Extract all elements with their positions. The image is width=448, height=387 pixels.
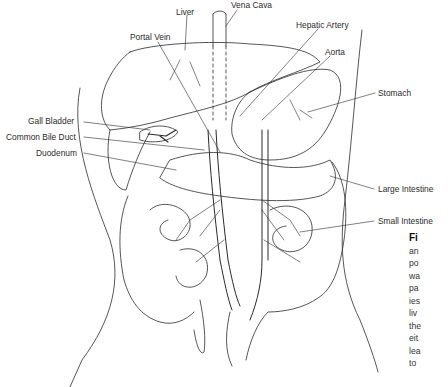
label-liver: Liver — [176, 8, 194, 16]
label-aorta: Aorta — [325, 48, 345, 56]
leader-liver — [185, 15, 187, 50]
label-small-intestine: Small Intestine — [378, 217, 433, 225]
caption-line: an — [409, 245, 448, 258]
caption-line: ies — [409, 295, 448, 308]
caption-line: eit — [409, 332, 448, 345]
leader-gall-bladder — [84, 122, 150, 130]
caption-line: lea — [409, 345, 448, 358]
label-vena-cava: Vena Cava — [231, 1, 272, 9]
leader-aorta — [262, 56, 330, 120]
large-intestine-right — [246, 162, 346, 360]
leader-stomach — [308, 93, 375, 112]
leader-common-bile-duct — [84, 137, 204, 150]
label-stomach: Stomach — [378, 89, 411, 97]
body-outline-right — [342, 30, 378, 372]
caption-line: liv — [409, 307, 448, 320]
duodenum-loop — [160, 153, 335, 201]
label-portal-vein: Portal Vein — [130, 33, 171, 41]
label-duodenum: Duodenum — [36, 149, 77, 157]
caption-line: the — [409, 320, 448, 333]
leader-large-intestine — [330, 176, 374, 189]
leader-hepatic-artery — [240, 29, 318, 116]
leader-duodenum — [84, 153, 176, 170]
anatomy-diagram: Liver Vena Cava Portal Vein Hepatic Arte… — [0, 0, 448, 387]
leader-vena-cava — [226, 10, 237, 26]
caption-line: wa — [409, 270, 448, 283]
label-common-bile-duct: Common Bile Duct — [6, 133, 76, 141]
body-outline-left — [70, 88, 115, 387]
caption-line: pa — [409, 282, 448, 295]
caption-line: po — [409, 257, 448, 270]
label-gall-bladder: Gall Bladder — [28, 117, 74, 125]
appendix — [194, 300, 205, 353]
label-large-intestine: Large Intestine — [378, 185, 433, 193]
liver-outline — [101, 42, 320, 130]
label-hepatic-artery: Hepatic Artery — [296, 21, 349, 29]
aorta-vessel — [250, 130, 268, 320]
sigmoid-colon — [227, 312, 233, 366]
figure-caption: Fi an po wa pa ies liv the eit lea to — [409, 232, 448, 370]
caption-line: to — [409, 357, 448, 370]
bile-vessels — [148, 130, 176, 142]
liver-lobe — [108, 130, 150, 190]
portal-vein — [208, 130, 240, 310]
large-intestine-left — [120, 196, 194, 323]
mesenteric-branches — [170, 60, 312, 262]
figure-label: Fi — [409, 232, 448, 245]
vena-cava — [213, 11, 226, 46]
vena-cava-dashed — [213, 46, 226, 120]
stomach-outline — [232, 69, 341, 160]
